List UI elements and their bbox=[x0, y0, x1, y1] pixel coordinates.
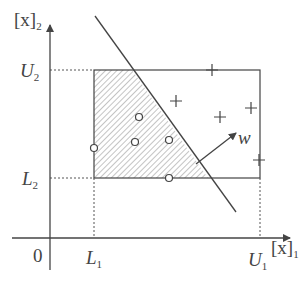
circle-point bbox=[91, 145, 98, 152]
circle-point bbox=[166, 137, 173, 144]
l2-label: L2 bbox=[21, 168, 38, 191]
feasible-region bbox=[94, 70, 208, 178]
plus-point bbox=[253, 154, 265, 166]
circle-point bbox=[132, 139, 139, 146]
u2-label: U2 bbox=[20, 60, 39, 83]
x-axis-label: [x]1 bbox=[271, 237, 299, 260]
plus-point bbox=[245, 102, 257, 114]
circle-point bbox=[136, 114, 143, 121]
plus-point bbox=[206, 64, 218, 76]
normal-vector-arrow bbox=[196, 133, 236, 164]
plus-point bbox=[170, 95, 182, 107]
circle-point bbox=[166, 175, 173, 182]
plus-point bbox=[214, 111, 226, 123]
normal-vector-label: w bbox=[238, 127, 251, 148]
l1-label: L1 bbox=[85, 247, 102, 270]
y-axis-label: [x]2 bbox=[14, 9, 42, 32]
origin-label: 0 bbox=[33, 245, 43, 266]
u1-label: U1 bbox=[248, 249, 267, 272]
diagram-canvas: [x]2 U2 L2 0 L1 U1 [x]1 w bbox=[0, 0, 308, 288]
